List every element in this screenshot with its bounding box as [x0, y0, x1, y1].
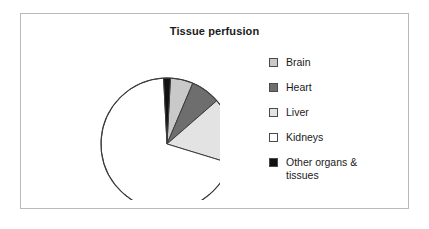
- legend-item-label: Other organs & tissues: [286, 156, 357, 182]
- legend-item-label: Heart: [286, 81, 312, 94]
- legend-item[interactable]: Liver: [269, 106, 405, 120]
- legend-swatch-liver: [269, 108, 278, 117]
- legend-item-label: Brain: [286, 56, 311, 69]
- legend-item-label: Liver: [286, 106, 309, 119]
- pie-svg: [60, 52, 220, 200]
- legend-swatch-other: [269, 158, 278, 167]
- legend-item[interactable]: Other organs & tissues: [269, 156, 405, 182]
- chart-title: Tissue perfusion: [21, 25, 408, 37]
- pie-chart: [60, 52, 220, 200]
- pie-slices: [101, 78, 220, 200]
- legend-item[interactable]: Heart: [269, 81, 405, 95]
- legend-swatch-heart: [269, 83, 278, 92]
- legend-item[interactable]: Kidneys: [269, 131, 405, 145]
- legend-item[interactable]: Brain: [269, 56, 405, 70]
- legend-swatch-kidneys: [269, 133, 278, 142]
- chart-legend: BrainHeartLiverKidneysOther organs & tis…: [269, 56, 405, 193]
- chart-frame: Tissue perfusion BrainHeartLiverKidneysO…: [20, 13, 409, 209]
- legend-item-label: Kidneys: [286, 131, 323, 144]
- legend-swatch-brain: [269, 58, 278, 67]
